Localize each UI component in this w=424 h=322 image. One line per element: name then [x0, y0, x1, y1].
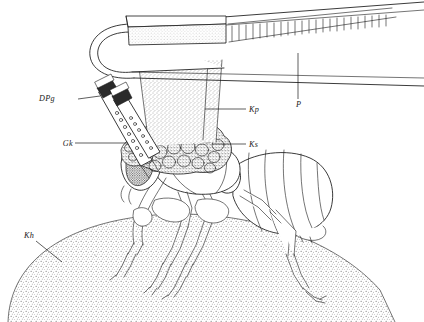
- serration-teeth: [228, 8, 396, 42]
- label-kp: Kp: [248, 105, 259, 114]
- grip-plate: [126, 16, 226, 45]
- label-ks: Ks: [248, 140, 258, 149]
- substrate-dome: [8, 214, 395, 322]
- leader-dpg: [78, 96, 100, 99]
- label-p: P: [295, 100, 301, 109]
- label-dpg: DPg: [38, 94, 55, 103]
- figure-root: DPg Gk Kp Ks P Kh: [0, 0, 424, 322]
- label-gk: Gk: [63, 139, 73, 148]
- label-kh: Kh: [23, 231, 34, 240]
- figure-illustration: DPg Gk Kp Ks P Kh: [0, 0, 424, 322]
